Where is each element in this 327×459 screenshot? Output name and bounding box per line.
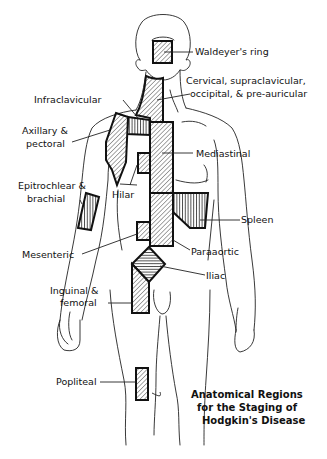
label-axillary-line2: pectoral [26, 138, 65, 149]
region-mesenteric [137, 222, 150, 240]
label-paraaortic: Paraaortic [191, 246, 239, 257]
title-line3: Hodgkin's Disease [202, 415, 305, 426]
label-mediastinal: Mediastinal [196, 148, 250, 159]
label-mesenteric: Mesenteric [22, 249, 74, 260]
label-epitrochlear-line2: brachial [27, 193, 65, 204]
label-epitrochlear-line1: Epitrochlear & [18, 180, 86, 191]
hodgkin-staging-diagram: Waldeyer's ring Cervical, supraclavicula… [0, 0, 327, 459]
label-spleen: Spleen [241, 214, 273, 225]
label-hilar: Hilar [112, 189, 134, 200]
region-mediastinal [150, 122, 173, 193]
label-cervical-line1: Cervical, supraclavicular, [186, 75, 306, 86]
region-infraclavicular [127, 117, 150, 135]
label-axillary-line1: Axillary & [22, 125, 68, 136]
label-cervical-line2: occipital, & pre-auricular [190, 88, 307, 99]
region-spleen [173, 193, 208, 228]
region-popliteal [136, 368, 148, 400]
region-axillary [106, 113, 128, 185]
region-cervical [136, 76, 163, 122]
label-iliac: Iliac [206, 270, 225, 281]
label-infraclavicular: Infraclavicular [34, 94, 102, 105]
label-waldeyer: Waldeyer's ring [195, 46, 269, 57]
region-epitrochlear [78, 193, 99, 230]
label-inguinal-line1: Inguinal & [50, 285, 99, 296]
label-popliteal: Popliteal [56, 376, 97, 387]
title-line2: for the Staging of [197, 402, 298, 413]
region-paraaortic [150, 193, 173, 246]
title-line1: Anatomical Regions [191, 389, 303, 400]
label-inguinal-line2: femoral [60, 297, 97, 308]
region-hilar [138, 153, 150, 173]
diagram-title: Anatomical Regions for the Staging of Ho… [191, 389, 305, 426]
